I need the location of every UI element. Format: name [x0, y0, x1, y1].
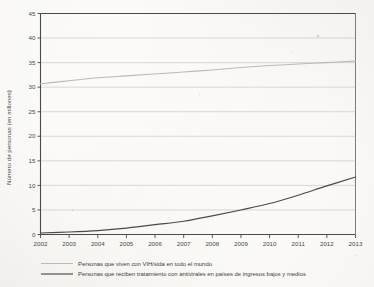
x-tick-label: 2003 [62, 240, 76, 247]
y-tick-label: 20 [29, 132, 36, 139]
series-line-hiv-worldwide [41, 61, 356, 84]
x-tick-label: 2013 [349, 240, 363, 247]
legend-label-antiretroviral-treatment: Personas que reciben tratamiento con ant… [78, 271, 306, 277]
x-tick-label: 2010 [263, 240, 277, 247]
hiv-treatment-line-chart: 051015202530354045 200220032004200520062… [0, 0, 374, 287]
x-tick-label: 2005 [120, 240, 134, 247]
x-tick-label: 2009 [234, 240, 248, 247]
x-tick-label: 2012 [320, 240, 334, 247]
chart-legend: Personas que viven con VIH/sida en todo … [41, 261, 306, 278]
y-tick-label: 10 [29, 182, 36, 189]
y-tick-label: 5 [32, 206, 36, 213]
y-tick-labels-group: 051015202530354045 [29, 10, 36, 238]
y-tick-label: 30 [29, 83, 36, 90]
y-tick-label: 45 [29, 10, 36, 17]
legend-label-hiv-worldwide: Personas que viven con VIH/sida en todo … [78, 261, 213, 267]
y-tick-label: 35 [29, 59, 36, 66]
x-tick-label: 2002 [34, 240, 48, 247]
x-tick-label: 2006 [148, 240, 162, 247]
y-tick-label: 0 [32, 231, 36, 238]
y-tick-label: 25 [29, 108, 36, 115]
x-tick-label: 2011 [292, 240, 306, 247]
y-tick-label: 40 [29, 34, 36, 41]
y-axis-label: Número de personas (en millones) [5, 90, 12, 185]
x-tick-label: 2007 [177, 240, 191, 247]
chart-canvas: 051015202530354045 200220032004200520062… [0, 0, 374, 287]
x-tick-labels-group: 2002200320042005200620072008200920102011… [34, 240, 363, 247]
x-tick-label: 2008 [205, 240, 219, 247]
y-tick-label: 15 [29, 157, 36, 164]
x-tick-label: 2004 [91, 240, 105, 247]
